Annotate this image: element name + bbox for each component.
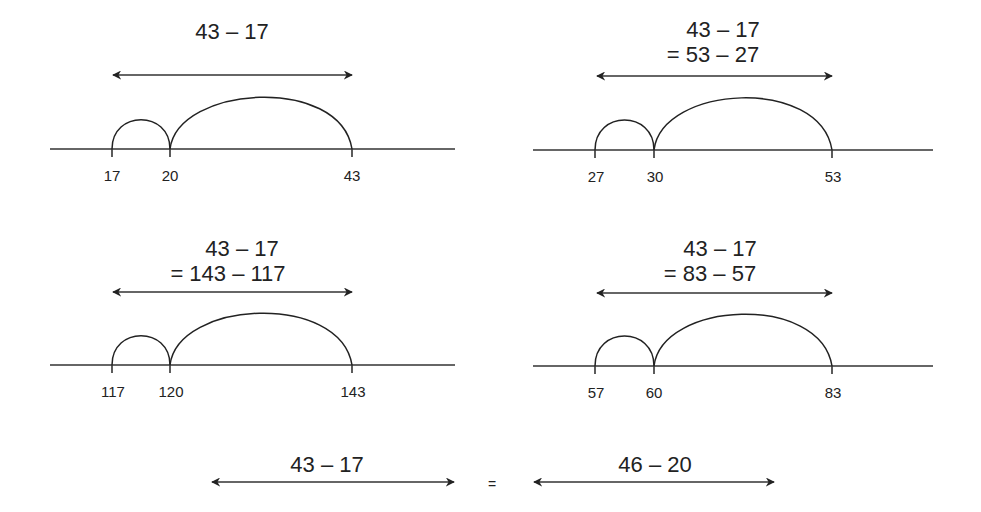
panel-2-label-b: 30 (647, 168, 664, 185)
panel-2-expression-line1: 43 – 17 (686, 17, 759, 42)
panel-3-label-c: 143 (340, 383, 365, 400)
number-line-diagram: 43 – 17 17 20 43 43 – 17 = 53 – 27 27 30… (0, 0, 981, 512)
panel-4-label-a: 57 (588, 384, 605, 401)
panel-4-small-jump-arc (595, 336, 654, 366)
panel-4-large-jump-arc (654, 314, 832, 366)
panel-2-label-c: 53 (825, 168, 842, 185)
panel-1-label-a: 17 (104, 167, 121, 184)
panel-1-small-jump-arc (112, 120, 170, 149)
panel-2-label-a: 27 (588, 168, 605, 185)
panel-1: 43 – 17 17 20 43 (50, 19, 455, 184)
panel-3-label-a: 117 (101, 383, 125, 400)
panel-2: 43 – 17 = 53 – 27 27 30 53 (533, 17, 933, 185)
bottom-right-label: 46 – 20 (618, 452, 691, 477)
panel-4-label-b: 60 (646, 384, 663, 401)
bottom-comparison: 43 – 17 = 46 – 20 (212, 452, 774, 492)
panel-1-large-jump-arc (170, 97, 352, 149)
panel-3: 43 – 17 = 143 – 117 117 120 143 (50, 236, 455, 400)
panel-4-expression-line2: = 83 – 57 (664, 261, 756, 286)
panel-2-expression-line2: = 53 – 27 (667, 42, 759, 67)
panel-3-expression-line1: 43 – 17 (205, 236, 278, 261)
panel-2-large-jump-arc (654, 98, 832, 150)
panel-4: 43 – 17 = 83 – 57 57 60 83 (533, 236, 933, 401)
panel-1-expression-line1: 43 – 17 (195, 19, 268, 44)
panel-2-small-jump-arc (595, 120, 654, 150)
panel-1-label-c: 43 (344, 167, 361, 184)
panel-4-label-c: 83 (825, 384, 842, 401)
panel-1-label-b: 20 (162, 167, 179, 184)
panel-3-expression-line2: = 143 – 117 (170, 261, 285, 286)
bottom-left-label: 43 – 17 (290, 452, 363, 477)
bottom-equals-sign: = (488, 476, 496, 492)
panel-3-small-jump-arc (112, 336, 170, 365)
panel-4-expression-line1: 43 – 17 (683, 236, 756, 261)
panel-3-large-jump-arc (170, 313, 352, 365)
panel-3-label-b: 120 (158, 383, 183, 400)
